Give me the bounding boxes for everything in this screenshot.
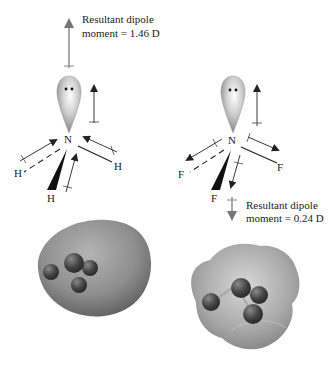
bond-n-h-left-dashed xyxy=(24,149,60,172)
atom-sphere-n xyxy=(231,278,251,298)
atom-h-right: H xyxy=(114,160,122,172)
atom-sphere-h xyxy=(82,260,98,276)
atom-f-left: F xyxy=(178,168,184,180)
nh3-structure: Resultant dipole moment = 1.46 D N H H xyxy=(14,13,160,204)
bond-n-f-left-dashed xyxy=(190,150,224,172)
resultant-dipole-arrow-down xyxy=(227,197,237,219)
dipole-moment-diagram: Resultant dipole moment = 1.46 D N H H xyxy=(0,0,336,370)
bond-dipole-arrow-h-left xyxy=(20,140,56,163)
atom-sphere-n xyxy=(64,253,84,273)
bond-dipole-arrow-f-bottom xyxy=(231,155,243,187)
bond-dipole-arrow-h-bottom xyxy=(63,155,76,192)
atom-sphere-h xyxy=(71,277,87,293)
atom-n-left: N xyxy=(64,133,72,145)
bond-n-h-right xyxy=(78,146,112,162)
nf3-electron-density-model xyxy=(191,244,299,350)
resultant-label-line2: moment = 1.46 D xyxy=(82,27,160,39)
lone-pair-lobe xyxy=(57,76,81,133)
resultant-label-line1: Resultant dipole xyxy=(246,199,318,211)
atom-h-bottom: H xyxy=(47,192,55,204)
bond-dipole-arrow-f-right xyxy=(247,133,278,150)
atom-h-left: H xyxy=(14,167,22,179)
bond-dipole-arrow-h-right xyxy=(84,137,117,155)
atom-f-right: F xyxy=(277,161,283,173)
lone-pair-dipole-arrow xyxy=(252,86,262,126)
lone-pair-lobe xyxy=(221,76,245,133)
atom-sphere-h xyxy=(43,264,59,280)
nh3-electron-density-model xyxy=(38,220,151,317)
atom-sphere-f xyxy=(250,286,268,304)
bond-n-f-right xyxy=(241,147,277,163)
lone-pair-dipole-arrow xyxy=(89,86,99,123)
atom-sphere-f xyxy=(243,304,263,324)
resultant-label-line1: Resultant dipole xyxy=(82,13,154,25)
nf3-structure: N F F F Resultant dipole moment = 0.24 D xyxy=(178,76,324,224)
resultant-dipole-arrow-up xyxy=(64,20,74,68)
atom-n-right: N xyxy=(228,134,236,146)
atom-sphere-f xyxy=(202,293,220,311)
bond-dipole-arrow-f-left xyxy=(187,139,222,160)
atom-f-bottom: F xyxy=(211,192,217,204)
resultant-label-line2: moment = 0.24 D xyxy=(246,212,324,224)
